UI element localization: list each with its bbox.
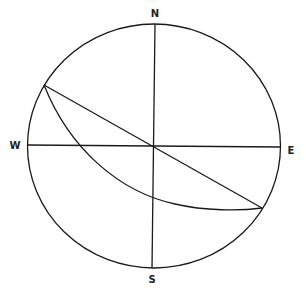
- label-east: E: [288, 145, 295, 156]
- label-south: S: [148, 274, 155, 285]
- stereonet-diagram: N S W E: [0, 0, 306, 294]
- label-west: W: [9, 140, 20, 151]
- label-north: N: [151, 8, 159, 19]
